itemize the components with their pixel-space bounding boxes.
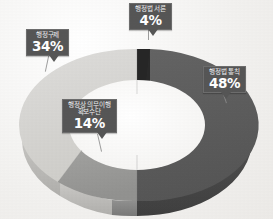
data-label-tongchik: 행정법 통칙 48% (203, 66, 246, 93)
data-label-guje-percent: 34% (32, 39, 63, 53)
data-label-seoron: 행정법 서론 4% (129, 3, 172, 30)
data-label-seoron-percent: 4% (135, 13, 166, 27)
callout-tail-suidan (97, 132, 107, 139)
data-label-suidan: 행정상 의무이행 확보수단 14% (62, 99, 117, 133)
callout-tail-seoron (148, 29, 158, 36)
wall-suidan (112, 200, 137, 216)
data-label-guje: 행정구제 34% (26, 29, 69, 56)
callout-tail-tongchik (221, 92, 231, 99)
data-label-tongchik-percent: 48% (209, 76, 240, 90)
data-label-suidan-percent: 14% (68, 116, 111, 130)
callout-tail-guje (49, 55, 59, 62)
donut-chart: 행정법 서론 4% 행정법 통칙 48% 행정구제 34% 행정상 의무이행 확… (0, 0, 273, 219)
